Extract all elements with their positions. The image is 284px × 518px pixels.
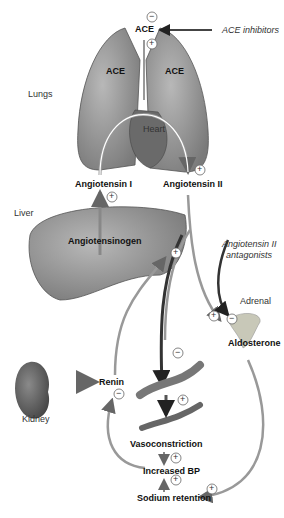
ace-top-label: ACE bbox=[135, 25, 154, 34]
plus-sign: + bbox=[209, 484, 214, 493]
minus-sign: − bbox=[175, 348, 180, 357]
heart-label: Heart bbox=[143, 125, 165, 134]
angiotensin-2-label: Angiotensin II bbox=[163, 180, 223, 189]
liver-label: Liver bbox=[14, 209, 34, 218]
aldosterone-label: Aldosterone bbox=[228, 339, 281, 348]
plus-sign: + bbox=[149, 39, 154, 48]
kidney-label: Kidney bbox=[22, 415, 50, 424]
renin-label: Renin bbox=[99, 378, 124, 387]
lungs-label: Lungs bbox=[28, 90, 53, 99]
sodium-retention-label: Sodium retention bbox=[137, 494, 211, 503]
blood-vessel-2 bbox=[142, 405, 200, 428]
angiotensinogen-label: Angiotensinogen bbox=[68, 237, 142, 246]
bp-feedback-arrow bbox=[108, 400, 145, 468]
plus-sign: + bbox=[173, 248, 178, 257]
vasoconstriction-label: Vasoconstriction bbox=[130, 440, 203, 449]
plus-sign: + bbox=[211, 311, 216, 320]
minus-sign: − bbox=[149, 12, 154, 21]
angiotensin-1-label: Angiotensin I bbox=[75, 180, 132, 189]
angiotensin-2-antagonists-label-1: Angiotensin II bbox=[222, 240, 277, 249]
increased-bp-label: Increased BP bbox=[143, 467, 200, 476]
ace-left-label: ACE bbox=[106, 67, 125, 76]
plus-sign: + bbox=[173, 453, 178, 462]
minus-sign: − bbox=[116, 389, 121, 398]
plus-sign: + bbox=[180, 395, 185, 404]
liver-illustration bbox=[29, 207, 186, 300]
plus-sign: + bbox=[173, 475, 178, 484]
minus-sign: − bbox=[229, 314, 234, 323]
plus-sign: + bbox=[197, 165, 202, 174]
blood-vessel-1 bbox=[140, 365, 200, 395]
ace-inhibitors-label: ACE inhibitors bbox=[222, 26, 279, 35]
kidney-illustration bbox=[15, 362, 49, 419]
adrenal-label: Adrenal bbox=[240, 297, 271, 306]
ace-right-label: ACE bbox=[165, 67, 184, 76]
angiotensin-2-antagonists-label-2: antagonists bbox=[226, 251, 272, 260]
plus-sign: + bbox=[109, 192, 114, 201]
aldosterone-to-sodium-arrow bbox=[200, 360, 263, 497]
